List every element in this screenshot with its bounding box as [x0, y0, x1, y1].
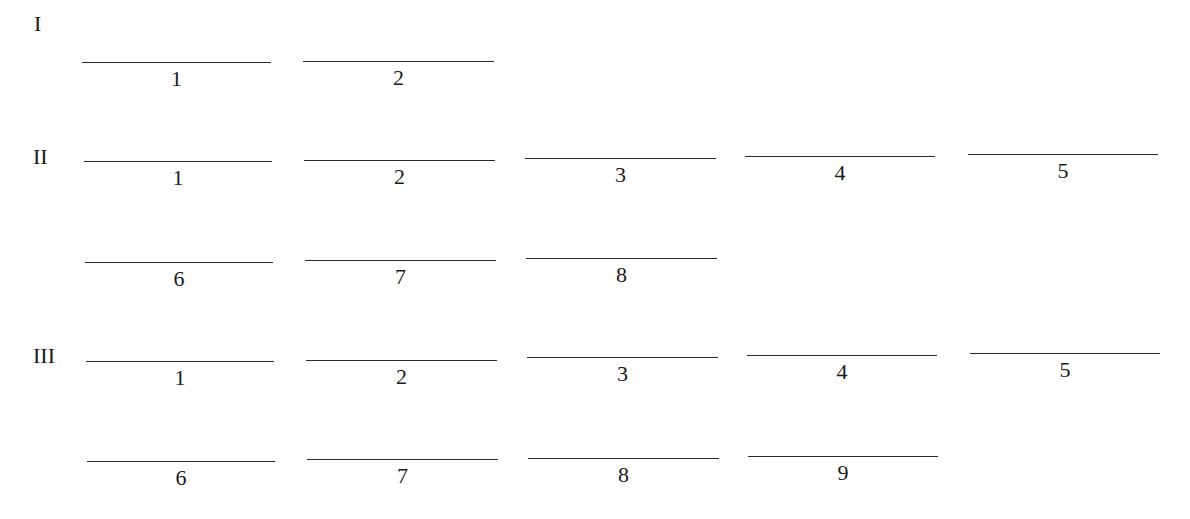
blank-number-label: 7 [305, 266, 496, 288]
answer-line[interactable] [526, 258, 717, 259]
answer-blank[interactable]: 1 [86, 361, 274, 401]
answer-blank[interactable]: 4 [747, 355, 937, 395]
answer-blank[interactable]: 7 [305, 260, 496, 300]
blank-number-label: 1 [82, 68, 271, 90]
blank-number-label: 4 [745, 162, 935, 184]
answer-blank[interactable]: 2 [303, 61, 494, 101]
answer-blank[interactable]: 5 [970, 353, 1160, 393]
answer-line[interactable] [970, 353, 1160, 354]
answer-blank[interactable]: 8 [526, 258, 717, 298]
blank-number-label: 2 [303, 67, 494, 89]
blank-number-label: 3 [527, 363, 718, 385]
blank-number-label: 7 [307, 465, 498, 487]
answer-blank[interactable]: 1 [84, 161, 272, 201]
blank-number-label: 5 [968, 160, 1158, 182]
answer-line[interactable] [747, 355, 937, 356]
blank-number-label: 5 [970, 359, 1160, 381]
answer-line[interactable] [303, 61, 494, 62]
answer-line[interactable] [527, 357, 718, 358]
answer-line[interactable] [82, 62, 271, 63]
answer-line[interactable] [85, 262, 273, 263]
blank-number-label: 6 [85, 268, 273, 290]
answer-line[interactable] [968, 154, 1158, 155]
blank-number-label: 2 [304, 166, 495, 188]
section-label: III [33, 345, 55, 367]
answer-line[interactable] [307, 459, 498, 460]
answer-line[interactable] [305, 260, 496, 261]
blank-number-label: 8 [528, 464, 719, 486]
answer-blank[interactable]: 2 [304, 160, 495, 200]
answer-line[interactable] [748, 456, 938, 457]
answer-blank[interactable]: 6 [87, 461, 275, 501]
answer-blank[interactable]: 3 [525, 158, 716, 198]
answer-blank[interactable]: 5 [968, 154, 1158, 194]
answer-blank[interactable]: 4 [745, 156, 935, 196]
answer-blank[interactable]: 7 [307, 459, 498, 499]
answer-line[interactable] [525, 158, 716, 159]
answer-blank[interactable]: 9 [748, 456, 938, 496]
blank-number-label: 3 [525, 164, 716, 186]
answer-blank[interactable]: 1 [82, 62, 271, 102]
answer-line[interactable] [87, 461, 275, 462]
answer-blank[interactable]: 6 [85, 262, 273, 302]
answer-blank[interactable]: 8 [528, 458, 719, 498]
answer-blank[interactable]: 3 [527, 357, 718, 397]
blank-number-label: 1 [86, 367, 274, 389]
blank-number-label: 9 [748, 462, 938, 484]
answer-line[interactable] [306, 360, 497, 361]
answer-line[interactable] [745, 156, 935, 157]
section-label: II [33, 146, 48, 168]
section-label: I [34, 13, 41, 35]
answer-line[interactable] [86, 361, 274, 362]
blank-number-label: 1 [84, 167, 272, 189]
answer-line[interactable] [84, 161, 272, 162]
blank-number-label: 6 [87, 467, 275, 489]
answer-line[interactable] [528, 458, 719, 459]
answer-blank[interactable]: 2 [306, 360, 497, 400]
answer-line[interactable] [304, 160, 495, 161]
blank-number-label: 4 [747, 361, 937, 383]
blank-number-label: 2 [306, 366, 497, 388]
blank-number-label: 8 [526, 264, 717, 286]
